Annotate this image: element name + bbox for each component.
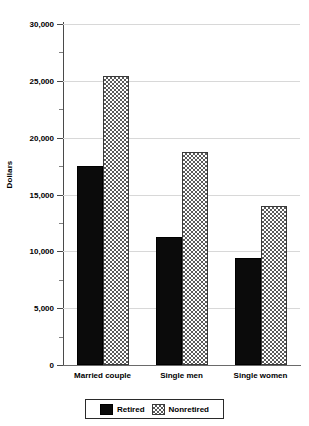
legend-label-nonretired: Nonretired [169,405,209,414]
y-tick-major [57,365,63,366]
y-tick-minor [59,109,63,110]
bar-nonretired-married-couple [103,76,129,365]
y-axis-tick-label: 30,000 [0,20,54,29]
legend-swatch-nonretired-icon [152,404,165,415]
x-axis-category-label: Single women [211,371,309,380]
y-axis-tick-label: 15,000 [0,191,54,200]
y-tick-major [57,81,63,82]
bar-retired-single-women [235,258,261,365]
y-tick-minor [59,166,63,167]
y-axis-tick-label: 10,000 [0,247,54,256]
y-tick-major [57,195,63,196]
y-axis-tick-label: 20,000 [0,134,54,143]
gridline [63,24,300,25]
y-tick-major [57,138,63,139]
y-tick-minor [59,52,63,53]
y-axis-tick-label: 25,000 [0,77,54,86]
bar-nonretired-single-men [182,152,208,365]
bar-nonretired-single-women [261,206,287,365]
y-tick-major [57,308,63,309]
y-axis-tick-label: 0 [0,361,54,370]
chart-legend: Retired Nonretired [85,399,224,419]
x-axis-line [63,365,301,366]
y-tick-minor [59,223,63,224]
legend-label-retired: Retired [117,405,145,414]
gridline [63,138,300,139]
legend-entry-retired: Retired [100,404,145,415]
y-tick-minor [59,280,63,281]
gridline [63,81,300,82]
y-tick-major [57,24,63,25]
bar-chart: Dollars Retired Nonretired 05,00010,0001… [0,0,308,426]
legend-swatch-retired-icon [100,404,113,415]
legend-entry-nonretired: Nonretired [152,404,209,415]
plot-area [63,24,300,365]
bar-retired-single-men [156,237,182,365]
bar-retired-married-couple [77,166,103,365]
y-axis-tick-label: 5,000 [0,304,54,313]
y-tick-minor [59,337,63,338]
y-tick-major [57,251,63,252]
